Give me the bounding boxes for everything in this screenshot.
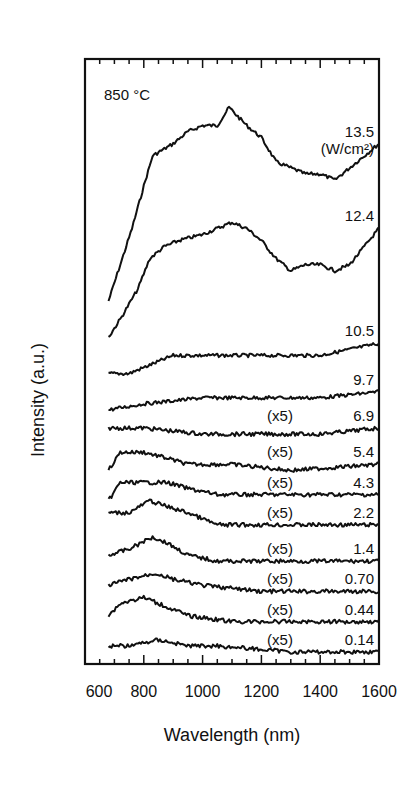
trace-2.2 (109, 500, 380, 527)
x-tick-label: 800 (130, 683, 157, 700)
trace-label: 13.5 (345, 123, 374, 140)
multiplier-label: (x5) (267, 407, 293, 424)
unit-label: (W/cm²) (321, 140, 374, 157)
multiplier-label: (x5) (267, 504, 293, 521)
x-tick-labels: 6008001000120014001600 (86, 683, 397, 700)
x-tick-label: 1000 (185, 683, 221, 700)
multiplier-label: (x5) (267, 540, 293, 557)
x-tick-label: 600 (86, 683, 113, 700)
x-tick-label: 1400 (302, 683, 338, 700)
trace-0.70 (109, 574, 380, 593)
trace-1.4 (109, 536, 380, 563)
trace-9.7 (109, 390, 380, 410)
spectral-traces (109, 107, 380, 654)
trace-label: 9.7 (353, 371, 374, 388)
trace-0.14 (109, 639, 380, 654)
trace-labels: 13.5(W/cm²)12.410.59.76.9(x5)5.4(x5)4.3(… (267, 123, 374, 648)
trace-label: 0.70 (345, 570, 374, 587)
trace-4.3 (109, 481, 380, 499)
x-axis-label: Wavelength (nm) (164, 725, 300, 745)
x-tick-label: 1600 (361, 683, 397, 700)
trace-13.5 (109, 107, 380, 301)
x-tick-label: 1200 (244, 683, 280, 700)
trace-label: 0.44 (345, 601, 374, 618)
trace-label: 6.9 (353, 407, 374, 424)
trace-6.9 (109, 426, 380, 436)
trace-10.5 (109, 343, 380, 375)
trace-label: 2.2 (353, 504, 374, 521)
multiplier-label: (x5) (267, 631, 293, 648)
multiplier-label: (x5) (267, 601, 293, 618)
trace-0.44 (109, 596, 380, 624)
temperature-annotation: 850 °C (104, 86, 150, 103)
multiplier-label: (x5) (267, 443, 293, 460)
multiplier-label: (x5) (267, 474, 293, 491)
trace-5.4 (109, 451, 380, 472)
multiplier-label: (x5) (267, 570, 293, 587)
trace-label: 10.5 (345, 322, 374, 339)
trace-12.4 (109, 222, 380, 337)
spectra-chart: 13.5(W/cm²)12.410.59.76.9(x5)5.4(x5)4.3(… (0, 0, 417, 785)
trace-label: 1.4 (353, 540, 374, 557)
y-axis-label: Intensity (a.u.) (28, 343, 48, 457)
trace-label: 0.14 (345, 631, 374, 648)
trace-label: 5.4 (353, 443, 374, 460)
trace-label: 4.3 (353, 474, 374, 491)
trace-label: 12.4 (345, 207, 374, 224)
